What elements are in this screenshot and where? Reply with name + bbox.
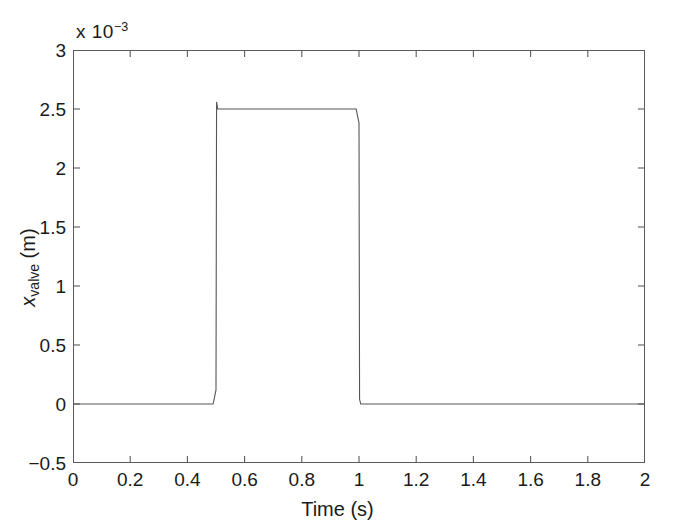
y-tick-label: 2: [4, 159, 66, 178]
y-tick-label: 3: [4, 41, 66, 60]
y-axis-title-unit: (m): [17, 228, 39, 264]
exponent-prefix: x 10: [76, 21, 114, 42]
y-tick-label: −0.5: [4, 454, 66, 473]
x-tick-label: 0.8: [289, 470, 315, 489]
plot-area: [73, 50, 645, 463]
x-tick-label: 2: [640, 470, 651, 489]
figure-canvas: x 10−3 −0.500.511.522.53 00.20.40.60.811…: [0, 0, 675, 532]
x-tick-label: 1.2: [403, 470, 429, 489]
x-axis-title: Time (s): [0, 498, 675, 521]
exponent-power: −3: [114, 20, 128, 34]
y-axis-title-base: x: [17, 297, 39, 307]
y-tick-label: 2.5: [4, 100, 66, 119]
y-axis-title-subscript: valve: [26, 264, 42, 297]
x-tick-label: 0: [68, 470, 79, 489]
y-axis-exponent-label: x 10−3: [76, 20, 128, 43]
x-tick-label: 0.6: [231, 470, 257, 489]
y-tick-label: 0: [4, 395, 66, 414]
x-tick-label: 1.4: [460, 470, 486, 489]
y-axis-title: xvalve (m): [17, 178, 40, 358]
x-tick-label: 1.8: [575, 470, 601, 489]
x-tick-label: 0.4: [174, 470, 200, 489]
x-tick-label: 1: [354, 470, 365, 489]
x-tick-label: 0.2: [117, 470, 143, 489]
x-tick-label: 1.6: [517, 470, 543, 489]
